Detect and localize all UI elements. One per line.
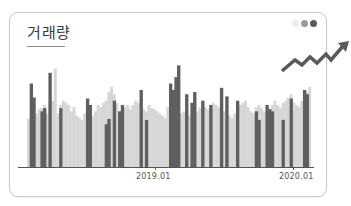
x-tick-label-2020: 2020.01 — [279, 172, 313, 181]
background-bar — [249, 111, 252, 167]
background-bar — [97, 105, 100, 167]
background-bar — [126, 105, 129, 167]
foreground-bar — [113, 101, 116, 167]
background-bar — [207, 109, 210, 167]
background-bar — [287, 97, 290, 167]
background-bar — [166, 107, 169, 167]
background-bar — [94, 111, 97, 167]
background-bar — [252, 114, 255, 168]
foreground-bar — [89, 105, 92, 167]
foreground-bar — [220, 88, 223, 167]
background-bar — [83, 114, 86, 168]
background-bar — [247, 107, 250, 167]
foreground-bar — [145, 120, 148, 167]
background-bar — [65, 103, 68, 167]
foreground-bar — [43, 108, 46, 167]
foreground-bar — [121, 105, 124, 167]
background-bar — [231, 118, 234, 167]
foreground-bar — [225, 96, 228, 167]
background-bar — [78, 118, 81, 167]
foreground-bar — [201, 101, 204, 167]
background-bar — [99, 107, 102, 167]
foreground-bar — [48, 73, 51, 167]
title-underline — [27, 46, 65, 47]
x-tick-2020 — [293, 167, 294, 170]
dot-dark-icon — [310, 20, 317, 27]
background-bar — [217, 107, 220, 167]
background-bar — [27, 119, 30, 167]
foreground-bar — [185, 94, 188, 167]
background-bar — [164, 118, 167, 167]
foreground-bar — [193, 92, 196, 167]
background-bar — [182, 111, 185, 167]
foreground-bar — [257, 120, 260, 167]
background-bar — [156, 111, 159, 167]
foreground-bar — [290, 99, 293, 167]
background-bar — [75, 116, 78, 167]
background-bar — [54, 69, 57, 167]
background-bar — [150, 108, 153, 167]
background-bar — [233, 114, 236, 168]
foreground-bar — [32, 97, 35, 167]
background-bar — [102, 103, 105, 167]
x-tick-2019 — [155, 167, 156, 170]
background-bar — [70, 111, 73, 167]
background-bar — [295, 105, 298, 167]
foreground-bar — [59, 108, 62, 167]
background-bar — [67, 105, 70, 167]
background-bar — [298, 107, 301, 167]
background-bar — [153, 109, 156, 167]
background-bar — [279, 108, 282, 167]
foreground-bar — [177, 65, 180, 167]
background-bar — [161, 116, 164, 167]
dot-light-icon — [292, 20, 299, 27]
foreground-bar — [282, 120, 285, 167]
chart-title: 거래량 — [27, 24, 71, 42]
background-bar — [73, 107, 76, 167]
foreground-bar — [209, 105, 212, 167]
background-bar — [38, 109, 41, 167]
volume-bar-chart — [27, 60, 311, 168]
background-bar — [198, 108, 201, 167]
background-bar — [131, 105, 134, 167]
foreground-bar — [271, 111, 274, 167]
background-bar — [300, 101, 303, 167]
background-bar — [81, 120, 84, 167]
background-bar — [276, 105, 279, 167]
background-bar — [158, 114, 161, 168]
background-bar — [215, 105, 218, 167]
background-bar — [56, 114, 59, 168]
background-bar — [134, 101, 137, 167]
background-bar — [137, 103, 140, 167]
x-tick-label-2019: 2019.01 — [136, 172, 170, 181]
background-bar — [129, 109, 132, 167]
x-axis-line — [18, 167, 314, 168]
window-dots — [292, 20, 317, 27]
foreground-bar — [107, 119, 110, 167]
background-bar — [263, 111, 266, 167]
dot-medium-icon — [301, 20, 308, 27]
background-bar — [244, 101, 247, 167]
foreground-bar — [140, 90, 143, 167]
background-bar — [241, 103, 244, 167]
foreground-bar — [306, 94, 309, 167]
foreground-bar — [236, 101, 239, 167]
